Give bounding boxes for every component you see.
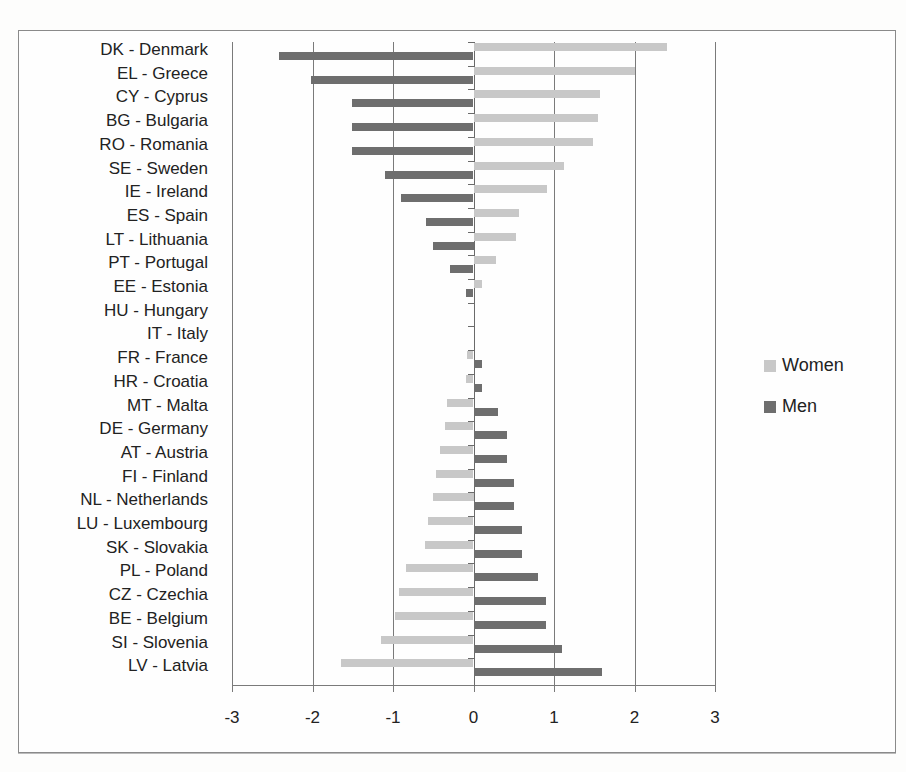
bar-women	[474, 67, 635, 75]
category-label: MT - Malta	[127, 396, 208, 416]
x-tick	[474, 686, 475, 692]
bar-men	[474, 573, 538, 581]
x-tick	[393, 686, 394, 692]
y-tick	[468, 326, 474, 327]
bar-women	[445, 422, 474, 430]
category-label: LT - Lithuania	[106, 230, 208, 250]
bar-women	[474, 90, 600, 98]
category-label: SE - Sweden	[109, 159, 208, 179]
bar-women	[406, 564, 474, 572]
bar-men	[474, 384, 483, 392]
bar-men	[474, 479, 514, 487]
bar-women	[474, 114, 599, 122]
category-label: FR - France	[117, 348, 208, 368]
category-label: DK - Denmark	[100, 40, 208, 60]
gridline	[393, 42, 394, 686]
bar-men	[474, 431, 507, 439]
gridline	[313, 42, 314, 686]
bar-women	[474, 256, 497, 264]
bar-men	[474, 526, 522, 534]
y-tick	[468, 303, 474, 304]
x-tick-label: -2	[293, 708, 333, 728]
x-tick	[635, 686, 636, 692]
gridline	[715, 42, 716, 686]
category-label: AT - Austria	[121, 443, 208, 463]
category-label: IE - Ireland	[125, 182, 208, 202]
category-label: ES - Spain	[127, 206, 208, 226]
x-tick-label: 3	[695, 708, 735, 728]
category-label: EL - Greece	[117, 64, 208, 84]
bar-men	[474, 550, 522, 558]
legend-label-men: Men	[782, 396, 817, 417]
bar-women	[466, 375, 473, 383]
bar-women	[447, 399, 474, 407]
bar-women	[440, 446, 473, 454]
legend-item-women: Women	[764, 355, 844, 376]
bar-men	[401, 194, 473, 202]
category-label: PT - Portugal	[108, 253, 208, 273]
bar-women	[341, 659, 474, 667]
x-tick	[232, 686, 233, 692]
bar-men	[279, 52, 474, 60]
x-tick	[554, 686, 555, 692]
bar-women	[474, 209, 520, 217]
women-swatch-icon	[764, 360, 776, 372]
category-label: EE - Estonia	[114, 277, 209, 297]
bar-women	[467, 351, 473, 359]
gridline	[232, 42, 233, 686]
bar-men	[352, 147, 474, 155]
bar-men	[474, 408, 499, 416]
bar-men	[426, 218, 473, 226]
bar-men	[466, 289, 473, 297]
bar-women	[436, 470, 474, 478]
bar-men	[474, 645, 563, 653]
men-swatch-icon	[764, 401, 776, 413]
bar-women	[474, 162, 564, 170]
category-label: SK - Slovakia	[106, 538, 208, 558]
bar-women	[381, 636, 474, 644]
bar-women	[474, 185, 547, 193]
bar-women	[433, 493, 473, 501]
x-tick-label: 0	[454, 708, 494, 728]
bar-women	[474, 138, 593, 146]
x-tick	[715, 686, 716, 692]
bar-women	[474, 280, 483, 288]
category-label: CZ - Czechia	[109, 585, 208, 605]
bar-men	[474, 621, 546, 629]
category-label: LU - Luxembourg	[77, 514, 208, 534]
bar-women	[395, 612, 473, 620]
bar-women	[425, 541, 473, 549]
legend-item-men: Men	[764, 396, 844, 417]
bar-men	[352, 123, 474, 131]
x-tick-label: 1	[534, 708, 574, 728]
bar-men	[474, 597, 546, 605]
category-label: DE - Germany	[99, 419, 208, 439]
bar-men	[474, 502, 514, 510]
category-label: IT - Italy	[147, 324, 208, 344]
category-label: PL - Poland	[120, 561, 208, 581]
legend: Women Men	[764, 355, 844, 437]
category-label: HR - Croatia	[114, 372, 208, 392]
gridline	[635, 42, 636, 686]
x-tick-label: -1	[373, 708, 413, 728]
bar-men	[385, 171, 474, 179]
bar-men	[474, 668, 603, 676]
category-label: HU - Hungary	[104, 301, 208, 321]
category-label: BE - Belgium	[109, 609, 208, 629]
category-label: NL - Netherlands	[80, 490, 208, 510]
bar-men	[474, 360, 483, 368]
bar-women	[428, 517, 473, 525]
bar-men	[311, 76, 474, 84]
category-label: LV - Latvia	[128, 656, 208, 676]
category-label: FI - Finland	[122, 467, 208, 487]
bar-women	[474, 43, 667, 51]
x-tick-label: -3	[212, 708, 252, 728]
bar-men	[450, 265, 473, 273]
legend-label-women: Women	[782, 355, 844, 376]
x-tick	[313, 686, 314, 692]
category-label: RO - Romania	[99, 135, 208, 155]
bar-men	[433, 242, 473, 250]
bar-men	[352, 99, 474, 107]
x-tick-label: 2	[615, 708, 655, 728]
category-label: CY - Cyprus	[116, 87, 208, 107]
